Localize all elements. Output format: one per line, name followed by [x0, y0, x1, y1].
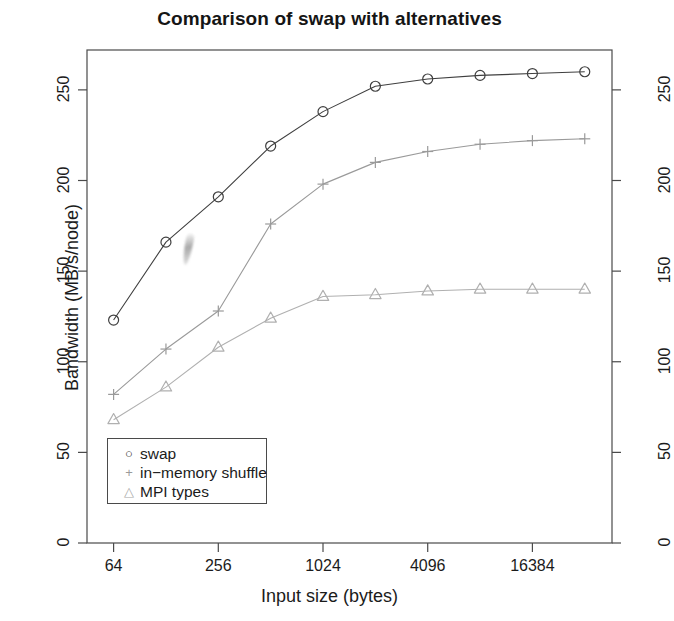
- triangle-marker-icon: △: [118, 482, 140, 501]
- chart-legend: ○ swap + in−memory shuffle △ MPI types: [107, 438, 267, 504]
- legend-label: MPI types: [140, 482, 209, 501]
- x-tick-label: 4096: [388, 557, 468, 575]
- y-tick-label: 100: [656, 331, 674, 391]
- legend-item-swap: ○ swap: [118, 444, 176, 463]
- y-tick-label: 200: [656, 150, 674, 210]
- x-tick-label: 256: [178, 557, 258, 575]
- y-tick-label: 0: [55, 512, 73, 572]
- x-tick-label: 64: [74, 557, 154, 575]
- y-tick-label: 150: [656, 240, 674, 300]
- legend-label: in−memory shuffle: [140, 463, 267, 482]
- plus-marker-icon: +: [118, 463, 140, 482]
- legend-item-mpi-types: △ MPI types: [118, 482, 209, 501]
- y-tick-label: 0: [656, 512, 674, 572]
- legend-label: swap: [140, 444, 176, 463]
- y-tick-label: 250: [656, 59, 674, 119]
- legend-item-in-memory-shuffle: + in−memory shuffle: [118, 463, 267, 482]
- circle-marker-icon: ○: [118, 444, 140, 463]
- y-axis-label: Bandwidth (MB/s/node): [62, 108, 83, 488]
- x-tick-label: 1024: [283, 557, 363, 575]
- y-tick-label: 50: [656, 421, 674, 481]
- x-axis-label: Input size (bytes): [0, 586, 659, 607]
- x-tick-label: 16384: [492, 557, 572, 575]
